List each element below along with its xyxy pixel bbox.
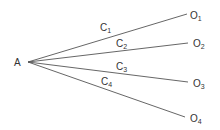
branch-4: C4 O4: [28, 62, 202, 125]
branch-1: C1 O1: [28, 10, 202, 62]
target-node-o3: O3: [193, 78, 205, 90]
target-node-o2: O2: [193, 38, 205, 50]
branch-3: C3 O3: [28, 61, 205, 90]
edge-line-4: [28, 62, 185, 117]
source-node-label: A: [14, 57, 21, 68]
target-node-o1: O1: [190, 10, 202, 22]
target-node-o4: O4: [190, 113, 202, 125]
edge-label-c4: C4: [101, 76, 112, 88]
branch-2: C2 O2: [28, 38, 205, 62]
edge-line-2: [28, 43, 188, 62]
edge-line-1: [28, 14, 187, 62]
edge-label-c3: C3: [116, 61, 127, 73]
branch-diagram: A C1 O1 C2 O2 C3 O3 C4 O4: [0, 0, 220, 130]
edge-label-c2: C2: [116, 38, 127, 50]
edge-label-c1: C1: [100, 22, 111, 34]
